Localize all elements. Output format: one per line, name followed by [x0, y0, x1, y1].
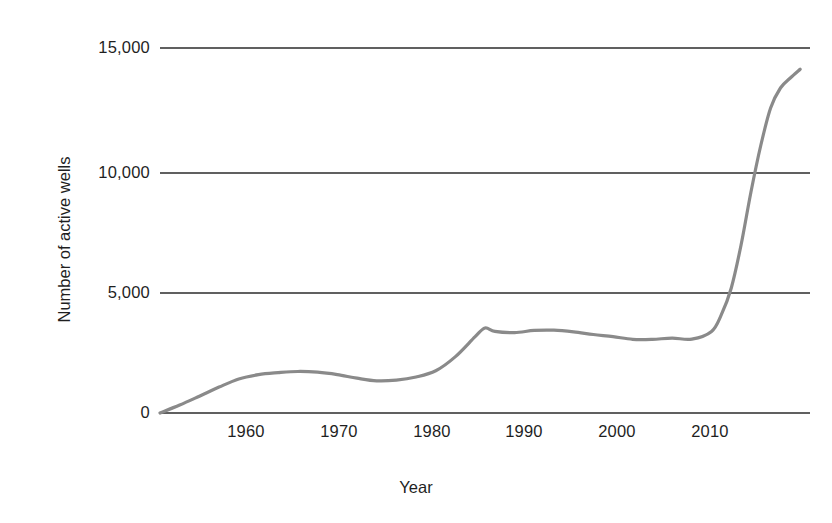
gridlines-group — [160, 48, 810, 413]
x-tick-label-1990: 1990 — [484, 422, 564, 441]
x-tick-label-1980: 1980 — [392, 422, 472, 441]
y-axis-title: Number of active wells — [55, 110, 74, 370]
y-tick-label-15000: 15,000 — [40, 38, 150, 57]
x-tick-label-2010: 2010 — [670, 422, 750, 441]
line-chart-figure: 15,000 10,000 5,000 0 1960 1970 1980 199… — [0, 0, 832, 523]
x-tick-label-1960: 1960 — [206, 422, 286, 441]
x-tick-label-1970: 1970 — [299, 422, 379, 441]
x-tick-label-2000: 2000 — [577, 422, 657, 441]
x-axis-title: Year — [0, 478, 832, 497]
data-series-line — [160, 69, 800, 413]
y-tick-label-0: 0 — [40, 403, 150, 422]
chart-plot-area — [0, 0, 832, 523]
